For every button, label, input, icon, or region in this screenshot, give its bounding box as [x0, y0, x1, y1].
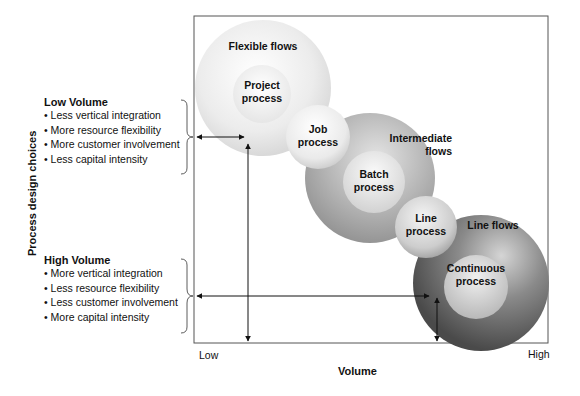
line-flows-label: Line flows — [458, 219, 528, 232]
continuous-process-label: Continuousprocess — [436, 262, 516, 288]
diagram-canvas — [0, 0, 580, 396]
y-axis-label: Process design choices — [26, 131, 38, 256]
low-volume-block: Low Volume • Less vertical integration •… — [44, 96, 180, 166]
x-axis-low-label: Low — [199, 349, 218, 361]
flexible-flows-label: Flexible flows — [213, 40, 313, 53]
low-volume-brace — [181, 100, 193, 174]
intermediate-flows-label: Intermediateflows — [352, 132, 452, 158]
x-axis-high-label: High — [528, 348, 550, 360]
low-volume-title: Low Volume — [44, 96, 180, 108]
line-process-label: Lineprocess — [396, 212, 456, 238]
high-volume-bullet: • More capital intensity — [44, 310, 178, 325]
project-process-label: Projectprocess — [232, 79, 292, 105]
low-volume-bullet: • Less vertical integration — [44, 108, 180, 123]
high-volume-bullet: • Less resource flexibility — [44, 281, 178, 296]
job-process-label: Jobprocess — [288, 123, 348, 149]
high-volume-title: High Volume — [44, 254, 178, 266]
low-volume-bullet: • More resource flexibility — [44, 123, 180, 138]
high-volume-bullet: • Less customer involvement — [44, 295, 178, 310]
high-volume-bullet: • More vertical integration — [44, 266, 178, 281]
low-volume-bullet: • Less capital intensity — [44, 152, 180, 167]
high-volume-block: High Volume • More vertical integration … — [44, 254, 178, 324]
high-volume-brace — [181, 259, 193, 333]
low-volume-bullet: • More customer involvement — [44, 137, 180, 152]
x-axis-label: Volume — [338, 365, 377, 377]
batch-process-label: Batchprocess — [344, 168, 404, 194]
